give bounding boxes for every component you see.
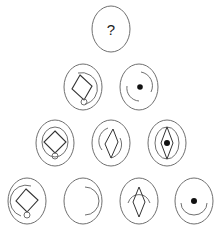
dot-bottom-arc-figure	[172, 176, 216, 226]
diamond-top-arc-figure	[117, 176, 161, 226]
square-inner-ellipse-circle-figure	[33, 118, 77, 168]
cell-r2c2	[117, 62, 161, 112]
dot-with-arcs-figure	[117, 62, 161, 112]
diamond-with-arcs-figure	[89, 118, 133, 168]
cell-r4c4	[172, 176, 216, 226]
single-arc-figure	[61, 176, 105, 226]
square-with-arc-and-circle-figure	[61, 62, 105, 112]
puzzle-figure: ?	[0, 0, 222, 230]
cell-r4c2	[61, 176, 105, 226]
square-arc-circle-figure	[5, 176, 49, 226]
cell-r3c3	[145, 118, 189, 168]
cell-question: ?	[89, 4, 133, 54]
cell-r3c1	[33, 118, 77, 168]
question-mark: ?	[89, 4, 133, 54]
diamond-dot-inner-ellipse-figure	[145, 118, 189, 168]
cell-r2c1	[61, 62, 105, 112]
cell-r3c2	[89, 118, 133, 168]
cell-r4c3	[117, 176, 161, 226]
cell-r4c1	[5, 176, 49, 226]
